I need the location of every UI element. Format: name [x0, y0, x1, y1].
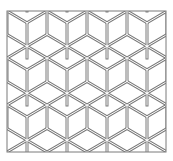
pattern-fill: [7, 11, 166, 152]
cube-pattern-figure: [0, 0, 173, 161]
